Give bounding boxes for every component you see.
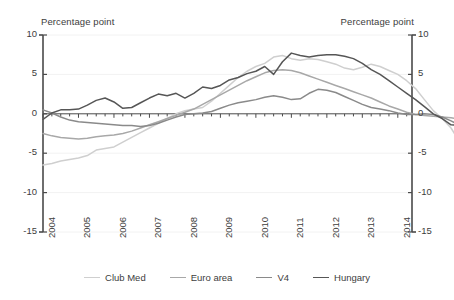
y-tick-label-right: -10: [418, 187, 444, 197]
y-tick-label-left: -5: [11, 147, 37, 157]
y-tick-label-right: -15: [418, 226, 444, 236]
x-tick-label: 2014: [402, 217, 412, 238]
x-tick-label: 2012: [331, 217, 341, 238]
y-tick-label-left: 5: [11, 68, 37, 78]
legend-swatch-icon: [84, 277, 100, 278]
series-line-v4: [43, 89, 454, 165]
x-tick-label: 2004: [47, 217, 57, 238]
legend-swatch-icon: [256, 277, 272, 278]
x-tick-label: 2007: [153, 217, 163, 238]
y-tick-label-left: 0: [11, 108, 37, 118]
legend-swatch-icon: [170, 277, 186, 278]
legend-swatch-icon: [313, 277, 329, 278]
y-tick-label-left: -10: [11, 187, 37, 197]
legend-item-hungary[interactable]: Hungary: [313, 272, 370, 283]
plot-area: [0, 0, 454, 300]
x-tick-label: 2011: [295, 218, 305, 238]
legend-label: Club Med: [105, 272, 146, 283]
y-tick-label-right: 5: [418, 68, 444, 78]
legend-item-euro-area[interactable]: Euro area: [170, 272, 233, 283]
legend-label: V4: [277, 272, 289, 283]
chart-legend: Club MedEuro areaV4Hungary: [0, 272, 454, 283]
x-tick-label: 2013: [366, 217, 376, 238]
y-tick-label-right: 0: [418, 108, 444, 118]
x-tick-label: 2008: [189, 217, 199, 238]
y-tick-label-right: -5: [418, 147, 444, 157]
chart-container: Percentage point Percentage point 1050-5…: [0, 0, 454, 300]
legend-item-club-med[interactable]: Club Med: [84, 272, 146, 283]
series-line-euro-area: [43, 70, 454, 139]
series-line-club-med: [43, 55, 454, 212]
x-tick-label: 2010: [260, 217, 270, 238]
x-tick-label: 2009: [224, 217, 234, 238]
y-tick-label-left: -15: [11, 226, 37, 236]
x-tick-label: 2005: [82, 217, 92, 238]
y-tick-label-right: 10: [418, 29, 444, 39]
x-tick-label: 2006: [118, 217, 128, 238]
legend-item-v4[interactable]: V4: [256, 272, 289, 283]
legend-label: Hungary: [334, 272, 370, 283]
legend-label: Euro area: [191, 272, 233, 283]
y-tick-label-left: 10: [11, 29, 37, 39]
